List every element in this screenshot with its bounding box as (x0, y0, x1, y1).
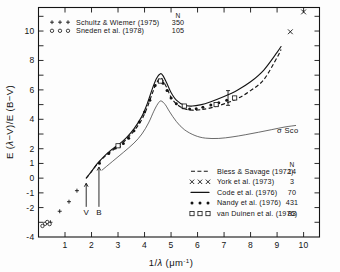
legend-bottom: NBless & Savage (1972)14York et al. (197… (190, 161, 298, 218)
series-line (86, 46, 281, 178)
data-series (48, 189, 79, 225)
series-line (102, 101, 296, 170)
y-tick-label: 10 (24, 26, 34, 36)
y-axis-title: E (λ−V)/E (B−V) (4, 85, 15, 159)
legend-entry[interactable]: Bless & Savage (1972)14 (191, 167, 296, 176)
x-tick-label: 6 (195, 240, 200, 250)
legend-label: York et al. (1973) (217, 177, 274, 186)
legend-label: Nandy et al. (1976) (217, 198, 281, 207)
x-tick-label: 5 (169, 240, 174, 250)
data-series (41, 220, 52, 227)
y-axis-tick-labels: -4-2-101246810 (24, 26, 34, 242)
data-series (86, 46, 281, 178)
y-tick-label: 4 (29, 114, 34, 124)
x-axis-tick-labels: 12345678910 (62, 240, 308, 250)
legend-entry[interactable]: Code et al. (1976)70 (191, 188, 296, 197)
x-axis-ticks (65, 232, 304, 237)
legend-count: 70 (288, 188, 296, 197)
y-axis-ticks (39, 16, 44, 222)
legend-count: 83 (288, 209, 296, 218)
y-tick-label: -2 (26, 203, 34, 213)
data-series (116, 79, 237, 148)
x-tick-label: 7 (222, 240, 227, 250)
legend-label: Code et al. (1976) (217, 188, 277, 197)
x-tick-label: 1 (62, 240, 67, 250)
sigma-sco-annotation: σ Sco (277, 126, 298, 135)
photometric-band-arrows: VB (84, 167, 102, 217)
band-label-b: B (96, 208, 101, 217)
y-tick-label: 0 (29, 173, 34, 183)
y-axis-ticks-right (315, 16, 320, 222)
legend-count: 431 (286, 198, 298, 207)
legend-top: NSchultz & Wiemer (1975)350Sneden et al.… (50, 12, 184, 36)
legend-label: van Duinen et al. (1976) (217, 209, 297, 218)
data-series (288, 10, 306, 35)
x-tick-label: 8 (248, 240, 253, 250)
legend-entry[interactable]: van Duinen et al. (1976)83 (190, 209, 297, 218)
plot-annotations: σ Sco (277, 126, 298, 135)
x-tick-label: 2 (89, 240, 94, 250)
data-series (98, 79, 236, 165)
legend-label: Sneden et al. (1978) (76, 26, 144, 35)
y-tick-label: 2 (29, 144, 34, 154)
legend-label: Bless & Savage (1972) (217, 167, 294, 176)
x-tick-label: 9 (275, 240, 280, 250)
error-bar (226, 91, 230, 106)
y-tick-label: -4 (26, 232, 34, 242)
y-tick-label: -1 (26, 188, 34, 198)
x-axis-ticks-top (65, 8, 304, 13)
x-tick-label: 10 (299, 240, 309, 250)
legend-count: 105 (172, 26, 184, 35)
band-label-v: V (84, 208, 90, 217)
y-tick-label: 8 (29, 55, 34, 65)
x-tick-label: 3 (116, 240, 121, 250)
extinction-curve-figure: 12345678910 -4-2-101246810 VB σ Sco NSch… (0, 0, 340, 272)
y-tick-label: 1 (29, 158, 34, 168)
legend-entry[interactable]: Sneden et al. (1978)105 (50, 26, 184, 35)
x-axis-title: 1/λ (μm-1) (149, 257, 194, 269)
data-series (102, 101, 296, 170)
plot-canvas: 12345678910 -4-2-101246810 VB σ Sco NSch… (0, 0, 340, 272)
legend-count: 14 (288, 167, 296, 176)
legend-entry[interactable]: York et al. (1973)3 (190, 177, 294, 186)
legend-count: 3 (290, 177, 294, 186)
x-tick-label: 4 (142, 240, 147, 250)
y-tick-label: 6 (29, 85, 34, 95)
legend-entry[interactable]: Nandy et al. (1976)431 (191, 198, 299, 207)
